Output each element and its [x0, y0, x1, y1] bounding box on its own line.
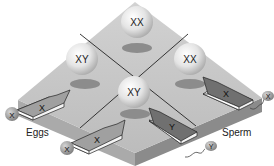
- arrow-label: X: [39, 103, 45, 113]
- genotype-label: XY: [75, 54, 89, 65]
- cell-right: XX: [174, 43, 206, 75]
- arrow-label: X: [94, 135, 100, 145]
- shadow: [175, 79, 205, 89]
- sperm-caption: Sperm: [222, 127, 251, 138]
- sperm-label: Y: [209, 143, 214, 150]
- arrow-label: X: [223, 89, 229, 99]
- shadow: [122, 43, 152, 53]
- egg-gamete: X: [60, 141, 74, 155]
- shadow: [120, 109, 150, 119]
- arrow-label: Y: [169, 122, 175, 132]
- egg-label: X: [64, 145, 70, 154]
- cell-top: XX: [121, 6, 153, 38]
- egg-label: X: [9, 111, 15, 120]
- egg-gamete: X: [5, 107, 19, 121]
- shadow: [70, 79, 100, 89]
- cell-left: XY: [66, 43, 98, 75]
- sperm-label: X: [266, 93, 271, 100]
- sperm-gamete: Y: [185, 141, 217, 157]
- genotype-label: XY: [127, 87, 141, 98]
- genotype-label: XX: [183, 54, 197, 65]
- sperm-tail: [185, 149, 205, 157]
- punnett-diagram: XX XY XX XY X X X Y X: [0, 0, 274, 166]
- eggs-caption: Eggs: [26, 127, 49, 138]
- cell-bottom: XY: [118, 76, 150, 108]
- genotype-label: XX: [130, 17, 144, 28]
